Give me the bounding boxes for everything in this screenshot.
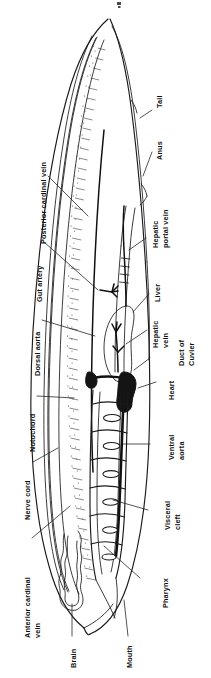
liver — [104, 306, 134, 382]
page-artifact-mark — [117, 2, 121, 5]
amphioxus-figure: Tail Anus Hepatic portal vein Liver Hepa… — [0, 0, 211, 678]
label-gut-artery: Gut artery — [35, 265, 44, 302]
label-nerve-cord: Nerve cord — [23, 480, 32, 520]
anatomy-diagram: Tail Anus Hepatic portal vein Liver Hepa… — [0, 0, 211, 678]
label-anterior-cardinal-vein: Anterior cardinal — [23, 577, 32, 638]
label-anterior-cardinal-vein-line2: vein — [33, 623, 42, 638]
leader-lines — [32, 110, 156, 636]
label-hepatic-vein: Hepatic — [151, 321, 160, 348]
label-duct-of-cuvier: Duct of — [177, 339, 186, 366]
label-hepatic-portal-vein-line2: portal vein — [161, 209, 170, 248]
label-tail: Tail — [155, 95, 164, 108]
label-anus: Anus — [155, 141, 164, 160]
hepatic-vessels — [100, 206, 126, 306]
label-heart: Heart — [167, 380, 176, 400]
page-artifact-mark-2 — [118, 6, 121, 8]
label-ventral-aorta-line2: aorta — [177, 441, 186, 460]
label-hepatic-vein-line2: vein — [161, 333, 170, 348]
dorsal-aorta — [92, 130, 105, 472]
label-hepatic-portal-vein: Hepatic — [151, 221, 160, 248]
label-ventral-aorta: Ventral — [167, 435, 176, 460]
mouth — [84, 578, 117, 628]
label-pharynx: Pharynx — [161, 578, 170, 608]
label-dorsal-aorta: Dorsal aorta — [33, 331, 42, 376]
label-notochord: Notochord — [28, 414, 37, 452]
label-liver: Liver — [153, 284, 162, 302]
label-duct-of-cuvier-line2: Cuvier — [187, 342, 196, 366]
body-outline — [31, 19, 150, 635]
label-visceral-cleft: Visceral — [163, 501, 172, 530]
label-mouth: Mouth — [125, 645, 134, 668]
label-visceral-cleft-line2: cleft — [173, 514, 182, 530]
label-posterior-cardinal-vein: Posterior cardinal vein — [39, 162, 48, 244]
label-brain: Brain — [69, 649, 78, 668]
